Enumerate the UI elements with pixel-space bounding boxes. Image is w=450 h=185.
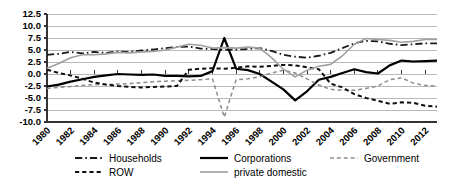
- sectoral-balances-line-chart: 12.510.07.55.02.50.0-2.5-5.0-7.5-10.0198…: [0, 0, 450, 185]
- x-tick-label-10: 2000: [266, 125, 289, 148]
- x-tick-label-11: 2002: [290, 125, 313, 148]
- legend-label-private-domestic: private domestic: [234, 167, 307, 178]
- y-tick-label-6: -2.5: [25, 80, 42, 91]
- legend-item-government[interactable]: Government: [330, 153, 419, 164]
- x-tick-label-14: 2008: [361, 125, 384, 148]
- legend-group: HouseholdsCorporationsGovernmentROWpriva…: [75, 153, 419, 178]
- x-tick-label-12: 2004: [313, 124, 336, 147]
- y-tick-label-7: -5.0: [25, 92, 41, 103]
- x-tick-labels-group: 1980198219841986198819901992199419961998…: [30, 124, 431, 147]
- x-tick-label-8: 1996: [219, 125, 242, 148]
- y-tick-label-2: 7.5: [28, 32, 42, 43]
- y-tick-label-8: -7.5: [25, 104, 42, 115]
- x-tick-label-4: 1988: [124, 125, 147, 148]
- x-tick-label-5: 1990: [148, 125, 171, 148]
- chart-container: 12.510.07.55.02.50.0-2.5-5.0-7.5-10.0198…: [0, 0, 450, 185]
- x-tick-label-15: 2010: [384, 125, 407, 148]
- legend-label-government: Government: [364, 153, 419, 164]
- y-tick-label-1: 10.0: [23, 20, 42, 31]
- y-tick-label-0: 12.5: [23, 8, 42, 19]
- x-tick-label-2: 1984: [77, 124, 100, 147]
- y-tick-label-3: 5.0: [28, 44, 41, 55]
- x-tick-label-13: 2006: [337, 125, 360, 148]
- series-line-households: [47, 41, 437, 58]
- legend-item-households[interactable]: Households: [75, 153, 162, 164]
- x-tick-label-9: 1998: [242, 125, 265, 148]
- y-tick-label-5: 0.0: [28, 68, 41, 79]
- x-tick-label-7: 1994: [195, 124, 218, 147]
- x-tick-label-0: 1980: [30, 125, 53, 148]
- legend-label-households: Households: [109, 153, 162, 164]
- x-tick-label-1: 1982: [53, 125, 76, 148]
- y-tick-label-4: 2.5: [28, 56, 42, 67]
- legend-item-row[interactable]: ROW: [75, 167, 134, 178]
- x-tick-label-16: 2012: [408, 125, 431, 148]
- y-tick-label-9: -10.0: [19, 116, 41, 127]
- x-tick-label-3: 1986: [101, 125, 124, 148]
- legend-item-corporations[interactable]: Corporations: [200, 153, 291, 164]
- x-tick-label-6: 1992: [172, 125, 195, 148]
- legend-item-private-domestic[interactable]: private domestic: [200, 167, 307, 178]
- y-tick-labels-group: 12.510.07.55.02.50.0-2.5-5.0-7.5-10.0: [19, 8, 41, 127]
- series-line-private-domestic: [47, 38, 437, 76]
- legend-label-row: ROW: [109, 167, 134, 178]
- legend-label-corporations: Corporations: [234, 153, 291, 164]
